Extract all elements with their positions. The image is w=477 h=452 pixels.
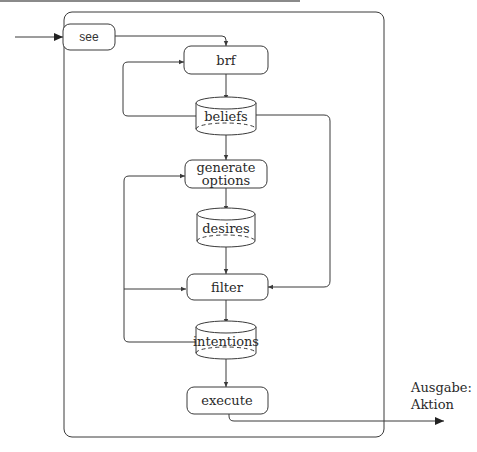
node-filter: filter bbox=[187, 274, 268, 300]
bdi-agent-diagram: see brf beliefs generate options desires… bbox=[0, 0, 477, 452]
node-generate-options: generate options bbox=[185, 160, 267, 188]
node-generate-label-2: options bbox=[202, 173, 250, 188]
edge-execute-output bbox=[229, 414, 444, 421]
node-filter-label: filter bbox=[211, 280, 244, 295]
top-border-line bbox=[0, 0, 300, 2]
node-execute: execute bbox=[187, 387, 268, 414]
node-see: see bbox=[63, 24, 115, 50]
output-label-1: Ausgabe: bbox=[410, 380, 472, 395]
node-beliefs: beliefs bbox=[196, 97, 256, 135]
node-see-label: see bbox=[79, 30, 99, 44]
node-desires-label: desires bbox=[202, 221, 249, 236]
node-beliefs-label: beliefs bbox=[204, 109, 248, 124]
edge-beliefs-filter bbox=[256, 115, 330, 287]
output-label-2: Aktion bbox=[410, 397, 454, 412]
node-brf: brf bbox=[184, 46, 268, 74]
node-brf-label: brf bbox=[216, 53, 237, 68]
node-desires: desires bbox=[197, 208, 255, 247]
node-intentions-label: intentions bbox=[193, 334, 259, 349]
node-intentions: intentions bbox=[193, 321, 259, 359]
edge-intentions-generate bbox=[124, 176, 196, 342]
edge-see-brf bbox=[115, 36, 226, 46]
node-execute-label: execute bbox=[201, 393, 253, 408]
